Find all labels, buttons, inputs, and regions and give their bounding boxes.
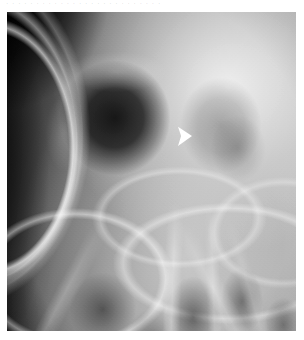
- film-grain-texture: [7, 12, 296, 331]
- left-orbit-region: [7, 12, 296, 331]
- soft-tissue-dark-corner: [7, 12, 296, 331]
- facial-bone-trabeculae: [7, 12, 296, 331]
- right-orbit-region: [7, 12, 296, 331]
- calvarial-arc-lines: [7, 12, 296, 331]
- radiograph-image: [7, 12, 296, 331]
- nasal-septum-midline: [7, 12, 296, 331]
- page-root: · · · · · · · · · · · · · · · · · · · · …: [0, 0, 304, 340]
- radiograph-base-tone: [7, 12, 296, 331]
- petrous-ridge-bands: [7, 12, 296, 331]
- left-orbit-rim: [7, 12, 296, 331]
- maxillary-sinus-shadows: [7, 12, 296, 331]
- image-vignette: [7, 12, 296, 331]
- caption-text-remnant: · · · · · · · · · · · · · · · · · · · · …: [0, 0, 304, 8]
